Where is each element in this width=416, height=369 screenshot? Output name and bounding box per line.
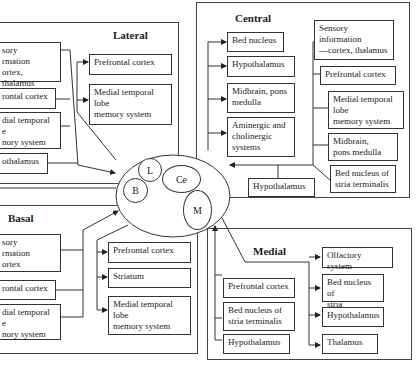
basal-input-prefrontal: rontal cortex — [0, 280, 56, 300]
central-output-hypothalamus: Hypothalamus — [227, 56, 295, 77]
nucleus-lateral: L — [138, 158, 162, 182]
lateral-title: Lateral — [113, 29, 148, 41]
basal-output-prefrontal: Prefrontal cortex — [108, 242, 191, 263]
basal-output-striatum: Striatum — [108, 268, 191, 288]
basal-input-sensory: sory rmation ortex — [0, 234, 61, 272]
lateral-input-hypothalamus: othalamus — [0, 153, 48, 174]
lateral-input-medial-temporal: dial temporal e nory system — [0, 112, 61, 149]
basal-output-medial-temporal: Medial temporal lobe memory system — [108, 296, 191, 335]
central-input-prefrontal: Prefrontal cortex — [320, 66, 396, 85]
medial-input-prefrontal: Prefrontal cortex — [223, 278, 295, 298]
basal-title: Basal — [8, 212, 34, 224]
medial-output-hypothalamus: Hypothalamus — [322, 307, 384, 327]
central-output-bed-nucleus: Bed nucleus — [227, 32, 284, 52]
medial-title: Medial — [253, 245, 286, 257]
central-input-midbrain: Midbrain, pons medulla — [328, 133, 398, 161]
central-input-medial-temporal: Medial temporal lobe memory system — [328, 91, 404, 129]
basal-input-medial-temporal: dial temporal e nory system — [0, 304, 61, 340]
lateral-input-sensory: sory rmation ortex, thalamus — [0, 42, 61, 82]
nucleus-basal: B — [123, 178, 148, 203]
central-output-aminergic: Aminergic and cholinergic systems — [227, 117, 295, 157]
central-title: Central — [235, 12, 271, 24]
medial-input-bed-nucleus: Bed nucleus of stria terminalis — [223, 302, 295, 331]
medial-input-hypothalamus: Hypothalamus — [223, 334, 290, 354]
nucleus-central: Ce — [162, 165, 201, 193]
central-input-bed-nucleus: Bed nucleus of stria terminalis — [330, 165, 396, 193]
lateral-input-prefrontal: rontal cortex — [0, 88, 56, 109]
nucleus-medial: M — [183, 190, 212, 230]
medial-output-thalamus: Thalamus — [322, 334, 378, 354]
medial-output-bed-nucleus: Bed nucleus of stria terminalis — [322, 274, 384, 302]
central-output-midbrain: Midbrain, pons medulla — [227, 83, 295, 113]
lateral-output-prefrontal: Prefrontal cortex — [89, 54, 172, 75]
medial-output-olfactory: Olfactory system — [322, 247, 393, 268]
lateral-output-medial-temporal: Medial temporal lobe memory system — [89, 84, 172, 125]
central-input-hypothalamus: Hypothalamus — [248, 178, 315, 197]
central-input-sensory: Sensory information —cortex, thalamus — [314, 20, 394, 60]
